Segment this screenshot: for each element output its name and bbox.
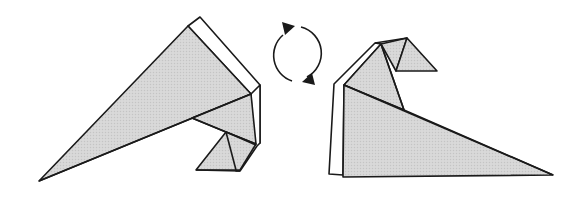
arrow-arc-top-icon xyxy=(274,35,292,81)
turn-over-arrows xyxy=(274,22,322,85)
arrowhead-bottom-icon xyxy=(302,73,315,85)
figure-after-turn-over xyxy=(329,38,553,177)
arrowhead-top-icon xyxy=(282,22,295,35)
arrow-arc-bottom-icon xyxy=(301,27,321,77)
figure-before-turn-over xyxy=(39,17,260,181)
origami-diagram xyxy=(0,0,587,199)
